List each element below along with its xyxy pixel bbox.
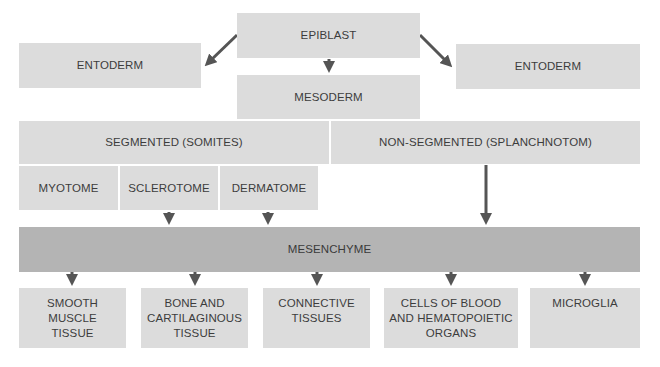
blood-cells-box: CELLS OF BLOOD AND HEMATOPOIETIC ORGANS: [384, 288, 518, 348]
mesenchyme-label: MESENCHYME: [288, 242, 371, 257]
microglia-label: MICROGLIA: [552, 296, 617, 311]
epiblast-label: EPIBLAST: [301, 28, 357, 43]
connective-tissues-box: CONNECTIVE TISSUES: [263, 288, 370, 348]
entoderm-left-label: ENTODERM: [77, 58, 143, 73]
entoderm-left-box: ENTODERM: [19, 43, 201, 88]
smooth-muscle-label: SMOOTH MUSCLE TISSUE: [47, 296, 98, 341]
sclerotome-label: SCLEROTOME: [128, 181, 209, 196]
dermatome-label: DERMATOME: [232, 181, 307, 196]
bone-cartilage-label: BONE AND CARTILAGINOUS TISSUE: [147, 296, 242, 341]
connective-tissues-label: CONNECTIVE TISSUES: [278, 296, 354, 326]
arrow-epiblast-to-entoderm-right: [420, 35, 448, 63]
sclerotome-box: SCLEROTOME: [120, 166, 218, 210]
segmented-box: SEGMENTED (SOMITES): [19, 121, 329, 164]
epiblast-box: EPIBLAST: [237, 13, 420, 58]
smooth-muscle-box: SMOOTH MUSCLE TISSUE: [19, 288, 126, 348]
bone-cartilage-box: BONE AND CARTILAGINOUS TISSUE: [141, 288, 248, 348]
mesoderm-label: MESODERM: [294, 90, 363, 105]
myotome-box: MYOTOME: [19, 166, 118, 210]
arrow-epiblast-to-entoderm-left: [209, 35, 237, 62]
segmented-label: SEGMENTED (SOMITES): [105, 135, 242, 150]
dermatome-box: DERMATOME: [220, 166, 318, 210]
blood-cells-label: CELLS OF BLOOD AND HEMATOPOIETIC ORGANS: [389, 296, 512, 341]
mesoderm-box: MESODERM: [237, 75, 420, 119]
mesenchyme-box: MESENCHYME: [19, 227, 640, 272]
entoderm-right-box: ENTODERM: [456, 44, 640, 89]
non-segmented-label: NON-SEGMENTED (SPLANCHNOTOM): [379, 135, 592, 150]
non-segmented-box: NON-SEGMENTED (SPLANCHNOTOM): [331, 121, 640, 164]
myotome-label: MYOTOME: [39, 181, 99, 196]
microglia-box: MICROGLIA: [530, 288, 640, 348]
entoderm-right-label: ENTODERM: [515, 59, 581, 74]
